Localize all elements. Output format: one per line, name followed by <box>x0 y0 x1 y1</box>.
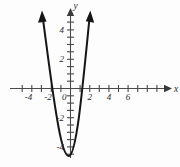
y-tick-label-neg2: -2 <box>57 113 65 123</box>
graph-canvas: -4 -2 2 4 6 4 2 -2 -4 0 y x <box>0 0 180 167</box>
origin-label: 0 <box>62 92 67 102</box>
y-tick-label-neg4: -4 <box>57 142 65 152</box>
parabola-figure: -4 -2 2 4 6 4 2 -2 -4 0 y x <box>0 0 180 167</box>
plot-background <box>0 0 180 167</box>
y-tick-label-2: 2 <box>60 54 65 64</box>
y-tick-label-4: 4 <box>60 25 65 35</box>
x-tick-label-4: 4 <box>107 92 112 102</box>
x-tick-label-neg2: -2 <box>44 92 52 102</box>
x-tick-label-neg4: -4 <box>25 92 33 102</box>
x-tick-label-2: 2 <box>87 92 92 102</box>
y-axis-label: y <box>73 1 79 11</box>
x-axis-label: x <box>173 84 179 94</box>
x-tick-label-6: 6 <box>126 92 131 102</box>
